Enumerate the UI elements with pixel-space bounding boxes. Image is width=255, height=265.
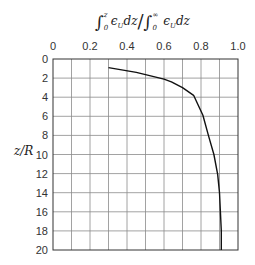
plot-area	[0, 0, 255, 265]
data-curve	[109, 68, 222, 250]
